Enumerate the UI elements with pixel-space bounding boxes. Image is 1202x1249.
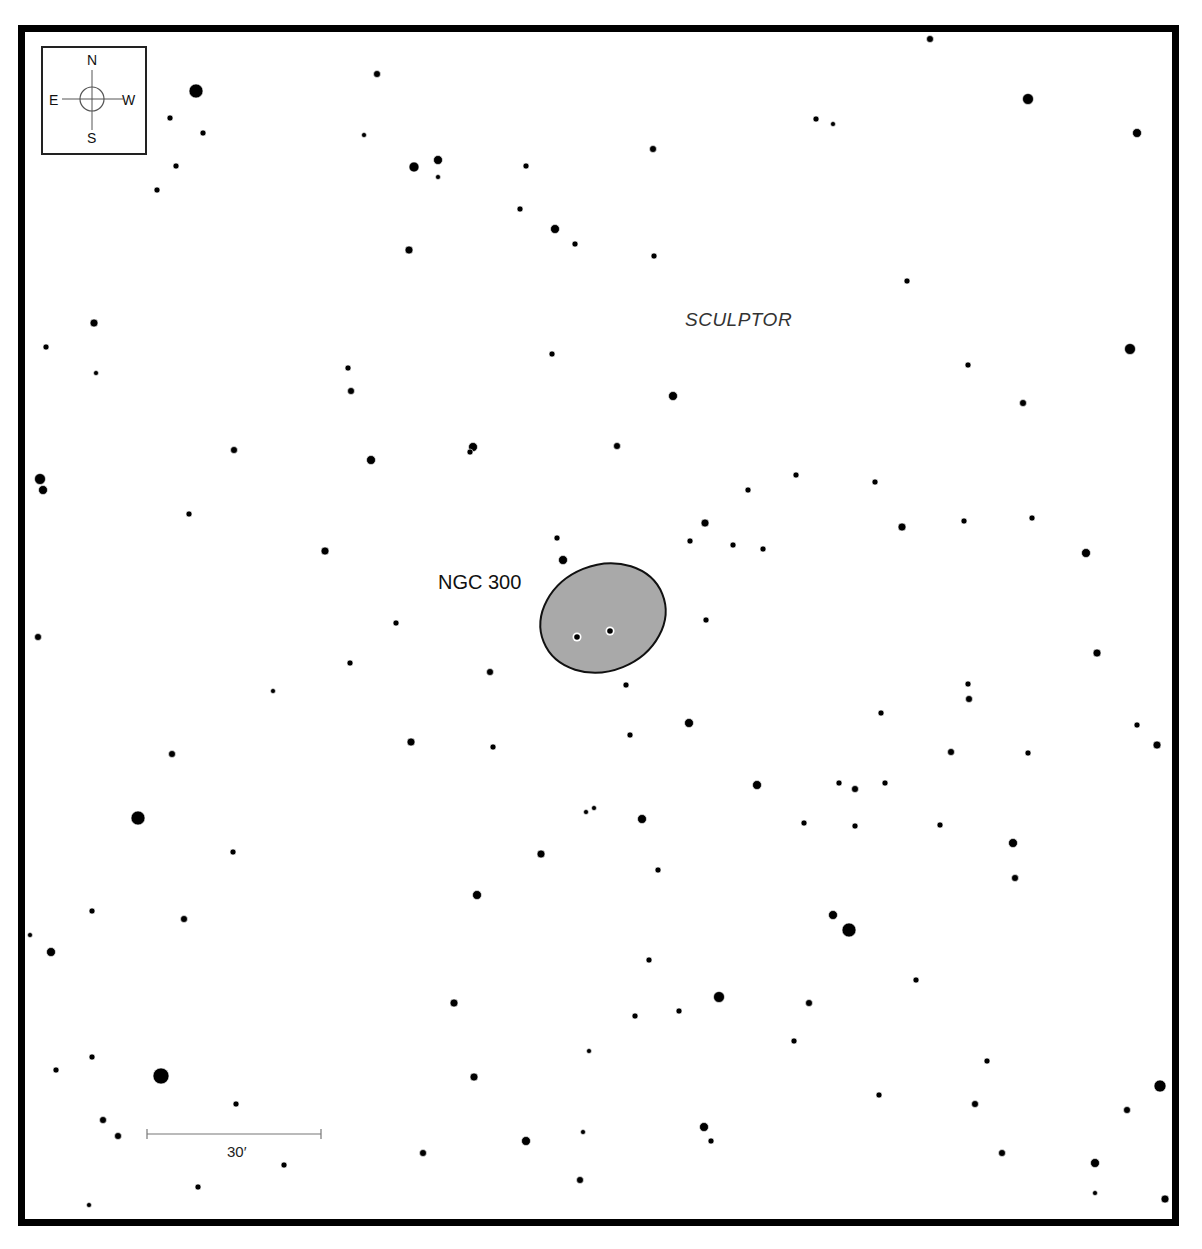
object-label: NGC 300 (438, 571, 521, 594)
compass-north-label: N (87, 53, 97, 67)
compass-west-label: W (122, 93, 135, 107)
constellation-label: SCULPTOR (685, 309, 792, 331)
compass-south-label: S (87, 131, 96, 145)
chart-frame (18, 25, 1179, 1226)
compass-east-label: E (49, 93, 58, 107)
scale-bar-label: 30′ (227, 1143, 247, 1160)
compass-rose: N S E W (41, 46, 147, 155)
